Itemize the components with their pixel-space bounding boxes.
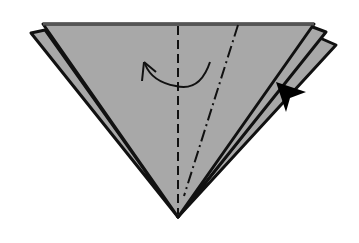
origami-diagram [0,0,359,243]
